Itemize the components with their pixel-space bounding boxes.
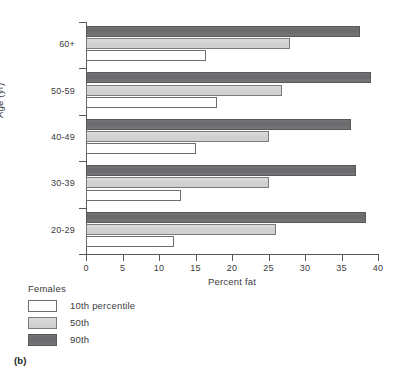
- y-axis-category-label-60plus: 60+: [0, 39, 75, 51]
- legend-title: Females: [28, 283, 228, 294]
- y-axis-tick: [79, 68, 86, 69]
- y-axis-tick-label: 60+: [59, 39, 75, 49]
- x-axis-tick-label: 35: [327, 263, 357, 273]
- legend-label: 90th: [70, 334, 89, 345]
- bar: [86, 72, 371, 83]
- figure-panel-b: 60+50-5940-4930-3920-29 0510152025303540…: [0, 0, 396, 377]
- plot-area: [86, 22, 378, 254]
- bar: [86, 50, 206, 61]
- y-axis-tick: [79, 208, 86, 209]
- bar: [86, 119, 351, 130]
- y-axis-tick: [79, 115, 86, 116]
- x-axis-tick: [305, 255, 306, 261]
- y-axis-category-label-50-59: 50-59: [0, 86, 75, 98]
- x-axis-tick: [232, 255, 233, 261]
- y-axis-title: Age (yr): [0, 83, 5, 118]
- bar: [86, 26, 360, 37]
- legend: Females 10th percentile50th90th: [28, 283, 228, 349]
- x-axis-tick-label: 15: [181, 263, 211, 273]
- bar: [86, 165, 356, 176]
- legend-item: 90th: [28, 332, 228, 347]
- y-axis-tick: [79, 161, 86, 162]
- bar: [86, 38, 290, 49]
- y-axis-tick: [79, 22, 86, 23]
- bar: [86, 236, 174, 247]
- x-axis-tick: [196, 255, 197, 261]
- bar: [86, 177, 269, 188]
- panel-caption: (b): [14, 355, 27, 366]
- legend-swatch: [28, 300, 57, 312]
- bar: [86, 190, 181, 201]
- x-axis-tick: [86, 255, 87, 261]
- legend-swatch: [28, 317, 57, 329]
- legend-item: 10th percentile: [28, 298, 228, 313]
- x-axis-tick: [342, 255, 343, 261]
- legend-item: 50th: [28, 315, 228, 330]
- y-axis-category-label-40-49: 40-49: [0, 132, 75, 144]
- x-axis-tick-label: 20: [217, 263, 247, 273]
- bar: [86, 212, 366, 223]
- y-axis-tick-label: 30-39: [51, 178, 75, 188]
- bar: [86, 143, 196, 154]
- y-axis-category-label-30-39: 30-39: [0, 178, 75, 190]
- x-axis-tick-label: 25: [254, 263, 284, 273]
- x-axis-tick-label: 5: [108, 263, 138, 273]
- x-axis-tick: [159, 255, 160, 261]
- legend-entries: 10th percentile50th90th: [28, 298, 228, 347]
- bar: [86, 224, 276, 235]
- y-axis-tick: [79, 254, 86, 255]
- x-axis-tick: [378, 255, 379, 261]
- x-axis-tick-label: 10: [144, 263, 174, 273]
- bar: [86, 131, 269, 142]
- bar: [86, 85, 282, 96]
- bar: [86, 97, 217, 108]
- x-axis-tick-label: 0: [71, 263, 101, 273]
- y-axis-tick-label: 40-49: [51, 132, 75, 142]
- legend-label: 10th percentile: [70, 300, 135, 311]
- y-axis-tick-label: 50-59: [51, 86, 75, 96]
- y-axis-category-label-20-29: 20-29: [0, 225, 75, 237]
- x-axis-tick-label: 40: [363, 263, 393, 273]
- legend-swatch: [28, 334, 57, 346]
- x-axis-tick: [269, 255, 270, 261]
- x-axis-tick: [123, 255, 124, 261]
- legend-label: 50th: [70, 317, 89, 328]
- y-axis-tick-label: 20-29: [51, 225, 75, 235]
- x-axis-tick-label: 30: [290, 263, 320, 273]
